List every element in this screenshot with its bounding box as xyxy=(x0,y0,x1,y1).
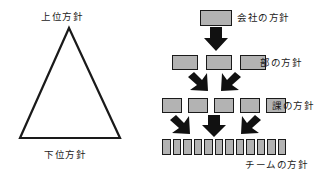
company-policy-box xyxy=(200,10,232,26)
label-company-policy: 会社の方針 xyxy=(237,13,290,23)
team-policy-box xyxy=(215,139,224,155)
team-policy-box xyxy=(225,139,234,155)
section-policy-box xyxy=(188,98,208,113)
down-right-arrow-icon xyxy=(221,72,241,91)
division-policy-box xyxy=(172,55,198,70)
label-division-policy: 部の方針 xyxy=(260,58,302,68)
down-arrow-icon xyxy=(204,27,228,51)
down-arrow-icon xyxy=(202,115,226,137)
label-lower-policy: 下位方針 xyxy=(44,150,86,160)
team-policy-box xyxy=(183,139,192,155)
policy-deployment-hierarchy-panel: 会社の方針 部の方針 xyxy=(150,0,335,179)
arrow-group-company-to-division xyxy=(150,26,335,54)
section-policy-box xyxy=(214,98,234,113)
team-policy-box xyxy=(173,139,182,155)
label-team-policy: チームの方針 xyxy=(245,160,308,170)
team-policy-box xyxy=(257,139,266,155)
row-division-boxes xyxy=(172,55,266,70)
team-policy-box xyxy=(236,139,245,155)
label-section-policy: 課の方針 xyxy=(272,101,314,111)
section-policy-box xyxy=(162,98,182,113)
down-right-arrow-icon xyxy=(241,115,261,134)
arrow-group-division-to-section xyxy=(150,70,335,98)
team-policy-box xyxy=(204,139,213,155)
arrow-group-section-to-team xyxy=(150,113,335,141)
policy-hierarchy-triangle-panel: 上位方針 下位方針 xyxy=(0,0,150,179)
team-policy-box xyxy=(194,139,203,155)
row-company-boxes xyxy=(200,10,232,26)
diagram-canvas: 上位方針 下位方針 会社の方針 部の方針 xyxy=(0,0,335,179)
division-policy-box xyxy=(206,55,232,70)
team-policy-box xyxy=(278,139,287,155)
row-team-boxes xyxy=(162,139,286,155)
label-upper-policy: 上位方針 xyxy=(41,12,83,22)
section-policy-box xyxy=(240,98,260,113)
row-section-boxes xyxy=(162,98,286,113)
down-left-arrow-icon xyxy=(188,72,208,91)
down-left-arrow-icon xyxy=(170,115,190,134)
team-policy-box xyxy=(246,139,255,155)
team-policy-box xyxy=(162,139,171,155)
team-policy-box xyxy=(267,139,276,155)
